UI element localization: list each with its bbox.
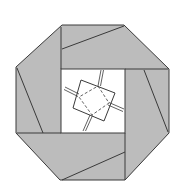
origami-diagram [0,0,180,196]
center-window [61,69,125,133]
